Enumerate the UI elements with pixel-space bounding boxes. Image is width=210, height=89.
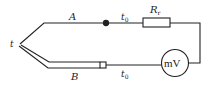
wire-b-end <box>100 62 106 68</box>
wire-a <box>20 23 105 44</box>
label-hot-junction: t <box>10 40 14 49</box>
thermocouple-circuit-diagram: A B t t0 t0 Rr mV <box>0 0 210 89</box>
label-cold-junction-top: t0 <box>121 13 128 23</box>
label-cold-junction-bottom: t0 <box>121 70 128 80</box>
wire-b-upper <box>21 45 100 62</box>
label-resistor: Rr <box>150 5 160 16</box>
label-wire-a: A <box>69 12 76 22</box>
label-resistor-sub: r <box>158 9 161 16</box>
resistor <box>143 18 170 27</box>
circuit-drawing <box>0 0 210 89</box>
label-millivoltmeter: mV <box>164 58 181 69</box>
label-cold-junction-bottom-sub: 0 <box>125 73 129 80</box>
label-cold-junction-top-sub: 0 <box>125 16 129 23</box>
wire-b-lower <box>19 46 100 68</box>
label-resistor-text: R <box>150 4 158 15</box>
label-wire-b: B <box>71 72 78 82</box>
